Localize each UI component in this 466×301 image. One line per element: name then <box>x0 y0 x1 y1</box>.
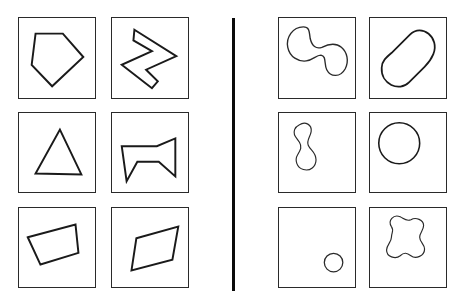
panel-bowtie-polygon <box>111 112 189 193</box>
zigzag-shape <box>112 18 188 98</box>
panel-rounded-oblong <box>369 17 447 99</box>
panel-four-lobed-blob <box>369 207 447 288</box>
panel-figure-eight-blob <box>278 112 356 193</box>
panel-circle <box>369 112 447 193</box>
parallelogram-shape <box>112 208 188 287</box>
figure-eight-blob-shape <box>279 113 355 192</box>
pentagon-shape <box>19 18 95 98</box>
panel-s-blob <box>278 17 356 99</box>
four-lobed-blob-shape <box>370 208 446 287</box>
s-blob-shape <box>279 18 355 98</box>
panel-parallelogram <box>111 207 189 288</box>
panel-pentagon <box>18 17 96 99</box>
panel-quadrilateral <box>18 207 96 288</box>
triangle-shape <box>19 113 95 192</box>
panel-triangle <box>18 112 96 193</box>
panel-small-circle <box>278 207 356 288</box>
bowtie-polygon-shape <box>112 113 188 192</box>
circle-shape <box>370 113 446 192</box>
quadrilateral-shape <box>19 208 95 287</box>
small-circle-shape <box>279 208 355 287</box>
panel-zigzag <box>111 17 189 99</box>
rounded-oblong-shape <box>370 18 446 98</box>
group-divider <box>232 18 235 291</box>
